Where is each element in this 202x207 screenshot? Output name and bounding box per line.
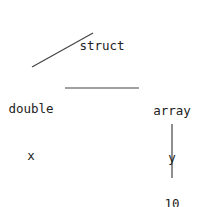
node-y-name: y — [153, 150, 191, 166]
node-x-name: x — [8, 148, 53, 164]
node-int: int — [157, 182, 187, 207]
node-struct-type: struct — [79, 38, 124, 54]
type-diagram: struct double x array y 10 int — [0, 0, 202, 207]
node-y-type: array — [153, 103, 191, 119]
node-x-type: double — [8, 101, 53, 117]
node-struct: struct — [79, 7, 124, 85]
node-double-x: double x — [8, 70, 53, 194]
